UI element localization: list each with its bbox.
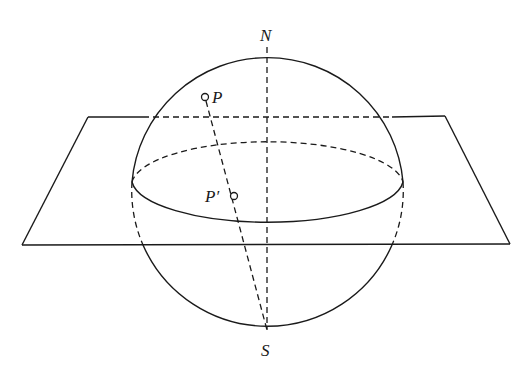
label-p: P [211, 88, 222, 107]
label-p-prime: P′ [204, 187, 219, 206]
label-south: S [261, 341, 270, 360]
equatorial-plane [22, 116, 510, 245]
point-p-prime-marker [231, 193, 238, 200]
projection-line [206, 101, 267, 330]
label-north: N [259, 26, 273, 45]
stereographic-diagram: N S P P′ [0, 0, 531, 376]
point-p-marker [202, 94, 209, 101]
